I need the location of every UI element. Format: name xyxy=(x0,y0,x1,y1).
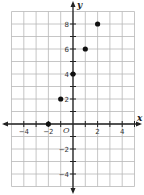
axes xyxy=(2,1,142,194)
data-point xyxy=(70,71,75,76)
y-axis-down-arrow-icon xyxy=(71,188,76,194)
y-tick-label: 4 xyxy=(65,71,70,79)
y-tick-label: 8 xyxy=(65,21,69,29)
x-axis-left-arrow-icon xyxy=(2,122,8,127)
data-point xyxy=(95,21,100,26)
x-axis-label: x xyxy=(136,113,143,123)
y-tick-label: 6 xyxy=(65,46,70,54)
x-tick-label: 2 xyxy=(95,128,99,136)
x-tick-label: −4 xyxy=(19,128,30,136)
x-tick-label: 4 xyxy=(120,128,125,136)
y-tick-label: −2 xyxy=(59,146,69,154)
x-tick-label: −2 xyxy=(43,128,53,136)
y-tick-label: 2 xyxy=(65,96,69,104)
data-point xyxy=(46,121,51,126)
data-point xyxy=(83,46,88,51)
coordinate-plane: −4−2248642−2−4 x y O xyxy=(0,0,144,195)
data-point xyxy=(58,96,63,101)
y-axis-label: y xyxy=(76,0,83,10)
y-tick-label: −4 xyxy=(59,171,70,179)
origin-label: O xyxy=(63,126,70,135)
y-axis-up-arrow-icon xyxy=(71,1,76,7)
